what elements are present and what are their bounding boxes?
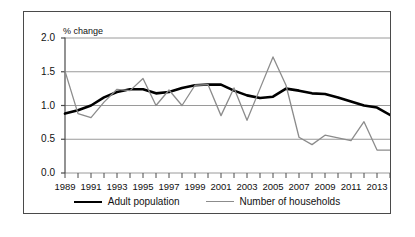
chart-legend: Adult population Number of households	[23, 196, 391, 207]
legend-label-adult-population: Adult population	[108, 196, 180, 207]
legend-swatch-adult-population	[74, 201, 102, 203]
legend-item-adult-population: Adult population	[74, 196, 180, 207]
y-tick-label: 0.0	[33, 167, 55, 178]
legend-swatch-number-of-households	[206, 201, 234, 202]
legend-item-number-of-households: Number of households	[206, 196, 341, 207]
legend-label-number-of-households: Number of households	[240, 196, 341, 207]
y-tick-label: 1.5	[33, 66, 55, 77]
y-tick-label: 2.0	[33, 32, 55, 43]
y-tick-label: 1.0	[33, 100, 55, 111]
x-tick-label: 2013	[362, 181, 392, 192]
y-tick-label: 0.5	[33, 133, 55, 144]
chart-figure: % change 0.00.51.01.52.01989199119931995…	[23, 11, 391, 214]
